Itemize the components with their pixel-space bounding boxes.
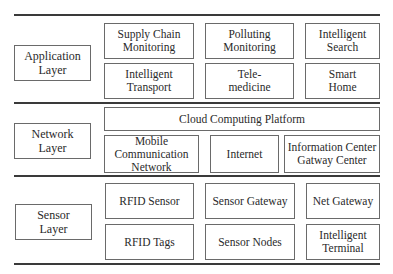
sensor-nodes-box: Sensor Nodes: [205, 224, 295, 260]
cloud-computing-platform-box: Cloud Computing Platform: [104, 107, 380, 131]
network-layer-label: Network Layer: [14, 123, 91, 159]
information-gateway-center-box: Information Center Gatway Center: [284, 135, 380, 173]
net-gateway-box: Net Gateway: [306, 183, 380, 219]
application-layer-label: Application Layer: [14, 45, 91, 81]
smart-home-box: Smart Home: [305, 63, 380, 99]
rfid-tags-box: RFID Tags: [105, 224, 194, 260]
intelligent-terminal-box: Intelligent Terminal: [306, 224, 380, 260]
polluting-monitoring-box: Polluting Monitoring: [205, 23, 294, 59]
internet-box: Internet: [210, 135, 279, 173]
bottom-divider: [14, 263, 380, 265]
rfid-sensor-box: RFID Sensor: [105, 183, 194, 219]
supply-chain-monitoring-box: Supply Chain Monitoring: [104, 23, 194, 59]
mobile-communication-network-box: Mobile Communication Network: [104, 135, 199, 173]
intelligent-transport-box: Intelligent Transport: [104, 63, 194, 99]
top-divider: [14, 14, 380, 16]
sensor-gateway-box: Sensor Gateway: [205, 183, 295, 219]
telemedicine-box: Tele- medicine: [205, 63, 294, 99]
intelligent-search-box: Intelligent Search: [305, 23, 380, 59]
app-network-divider: [14, 102, 380, 104]
sensor-layer-label: Sensor Layer: [15, 204, 92, 240]
network-sensor-divider: [14, 175, 380, 177]
